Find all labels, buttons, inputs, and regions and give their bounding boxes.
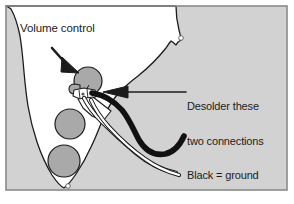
desolder-line-1: Desolder these (187, 101, 264, 113)
volume-control-label: Volume control (20, 23, 95, 35)
wiring-diagram-figure: Volume control Desolder these two connec… (0, 0, 294, 204)
tone-pot-1 (55, 109, 85, 139)
desolder-line-3: Black = ground (187, 170, 264, 182)
screw-hole-top (179, 36, 184, 41)
tone-pot-2 (48, 145, 80, 177)
screw-hole-bottom (66, 184, 71, 189)
desolder-callout-text: Desolder these two connections Black = g… (187, 78, 264, 204)
desolder-line-2: two connections (187, 136, 264, 148)
